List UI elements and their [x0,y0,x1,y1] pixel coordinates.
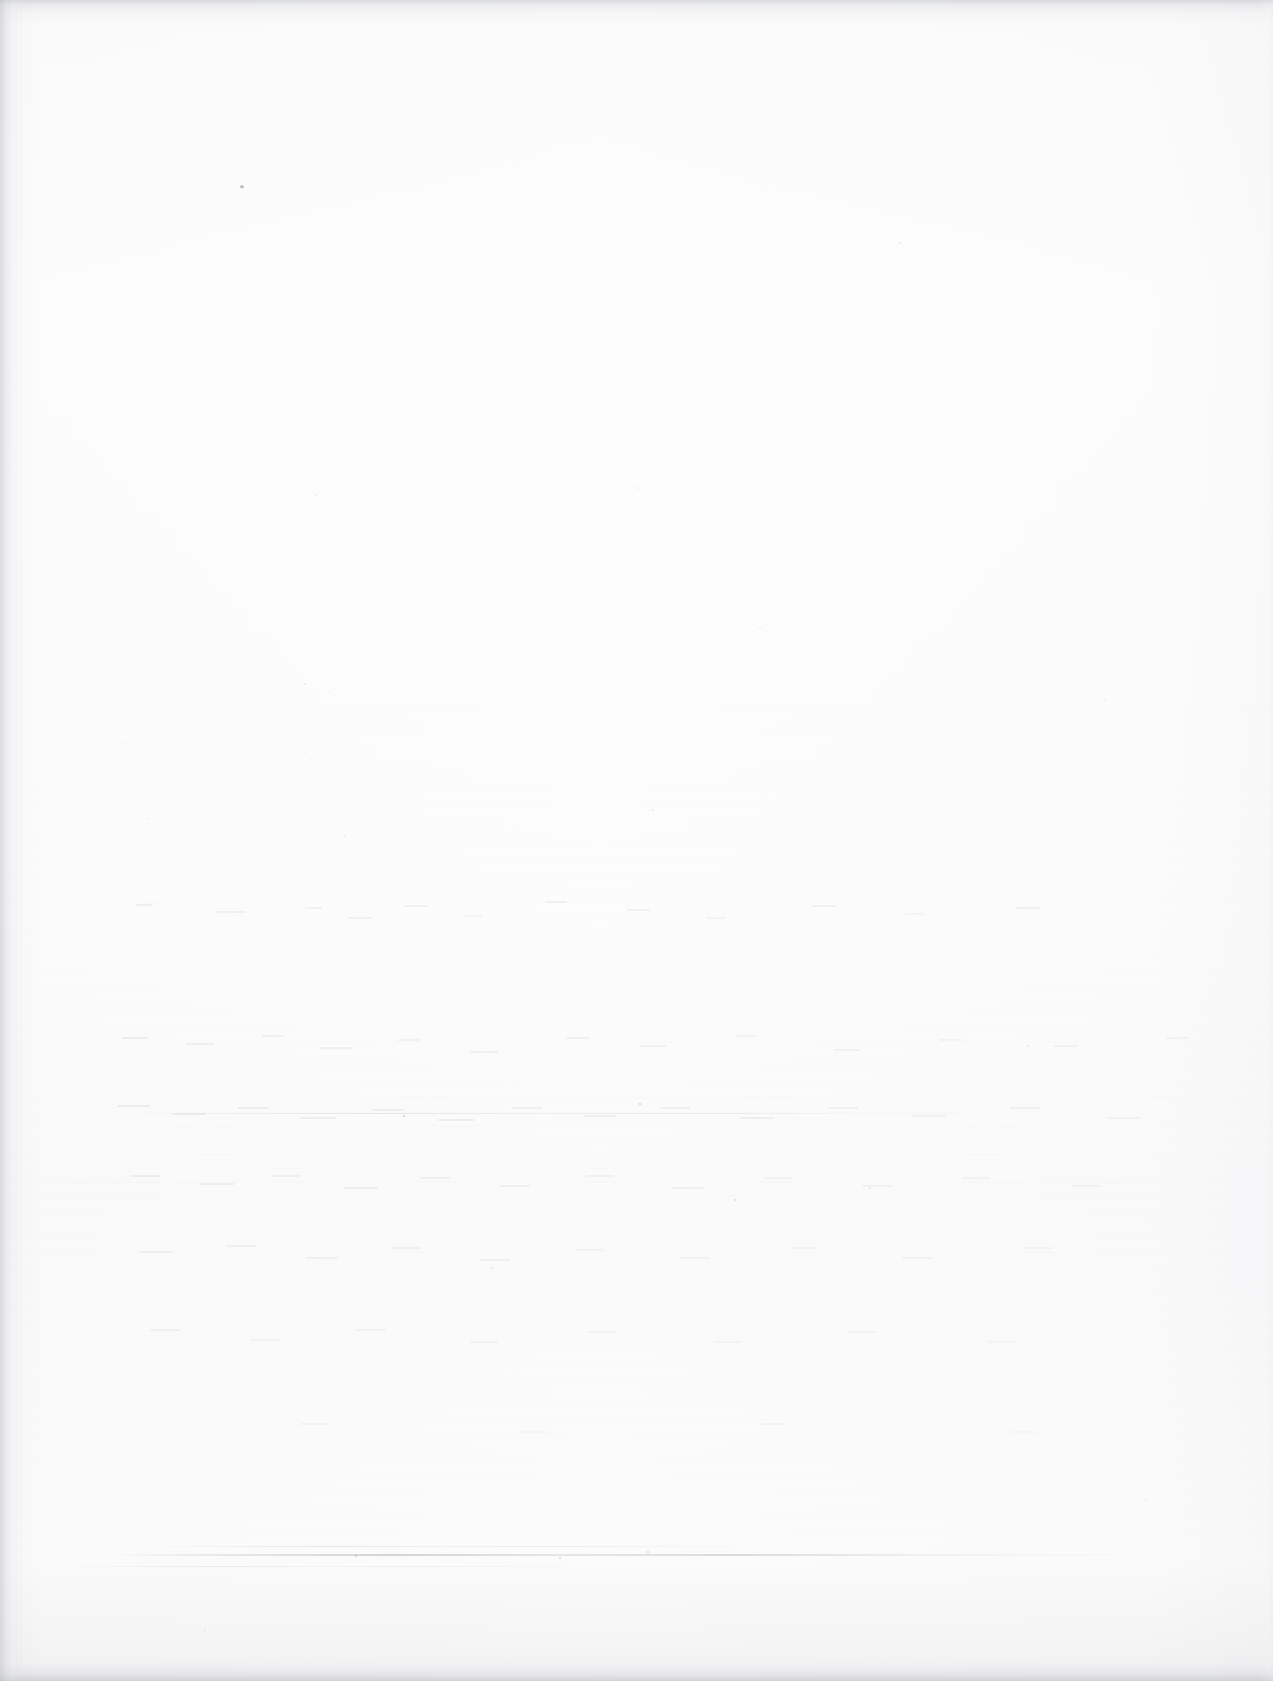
gutter-streaks [0,0,26,1681]
dust-speckle-field [0,0,1273,1681]
dust-speck [240,185,244,188]
right-edge-fringe [1259,0,1273,1681]
top-edge-fringe [0,0,1273,24]
scan-smudge-streak-upper [150,1546,850,1547]
scanned-page [0,0,1273,1681]
bottom-edge-fringe [0,1651,1273,1681]
scan-smudge-streak-lower [60,1566,680,1567]
scan-smudge-streak-main [110,1554,1190,1556]
left-edge-fringe [0,0,22,1681]
scan-line-texture [0,0,1273,1681]
scan-smudge-streak-middle [120,1113,1100,1114]
